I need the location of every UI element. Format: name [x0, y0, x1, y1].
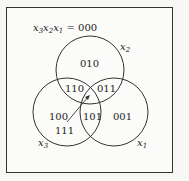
- region-011: 011: [97, 83, 116, 94]
- label-x2: x2: [120, 41, 131, 54]
- region-100: 100: [49, 111, 68, 122]
- venn-diagram: x3x2x1 = 000 x2 x3 x1 010 110 011 100 10…: [0, 0, 189, 181]
- region-111: 111: [55, 125, 74, 136]
- region-001: 001: [113, 111, 132, 122]
- title-equation: x3x2x1 = 000: [33, 22, 97, 35]
- region-110: 110: [65, 83, 84, 94]
- region-101: 101: [83, 111, 102, 122]
- region-010: 010: [80, 58, 99, 69]
- label-x1: x1: [137, 137, 147, 150]
